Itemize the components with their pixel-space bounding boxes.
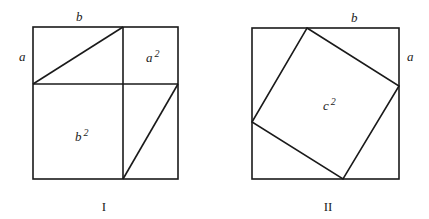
figure-1-label-b-squared: b2 bbox=[75, 127, 89, 144]
figure-2-label-c-squared: c2 bbox=[323, 96, 336, 113]
figure-2-label-a: a bbox=[407, 49, 414, 64]
figure-2-caption: II bbox=[324, 199, 333, 214]
figure-2: b a c2 II bbox=[252, 10, 414, 214]
figure-2-label-b: b bbox=[351, 10, 358, 25]
figure-1-diagonal-top-left bbox=[33, 27, 123, 84]
pythagorean-proof-diagram: b a a2 b2 I b a c2 II bbox=[0, 0, 429, 219]
figure-1-label-a-squared: a2 bbox=[146, 48, 160, 65]
figure-1-diagonal-bottom-right bbox=[123, 84, 178, 179]
figure-1-label-b: b bbox=[76, 9, 83, 24]
figure-1-caption: I bbox=[102, 199, 106, 214]
figure-1-label-a: a bbox=[19, 49, 26, 64]
figure-1: b a a2 b2 I bbox=[19, 9, 178, 214]
